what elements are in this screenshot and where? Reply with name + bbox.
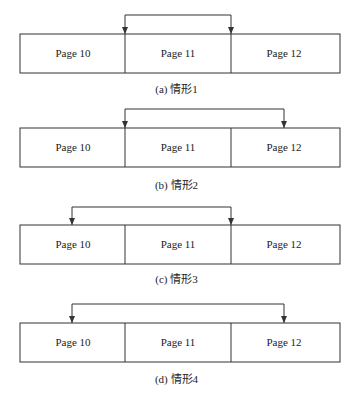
figure-caption: (c) 情形3 [0, 272, 353, 286]
arrow-head-icon [228, 27, 234, 34]
figure-caption: (d) 情形4 [0, 372, 353, 386]
figure-caption: (a) 情形1 [0, 82, 353, 96]
bracket-arrow-a [125, 15, 231, 34]
arrow-head-icon [281, 121, 287, 128]
page-label: Page 12 [231, 335, 337, 349]
figure-c [20, 207, 340, 264]
bracket-arrow-c [72, 207, 231, 225]
arrow-head-icon [122, 121, 128, 128]
arrow-head-icon [69, 316, 75, 323]
bracket-arrow-d [72, 304, 284, 323]
page-label: Page 10 [20, 335, 126, 349]
bracket-arrow-b [125, 109, 284, 128]
page-label: Page 11 [125, 237, 231, 251]
page-label: Page 11 [125, 46, 231, 60]
page-label: Page 12 [231, 46, 337, 60]
arrow-head-icon [281, 316, 287, 323]
page-label: Page 11 [125, 140, 231, 154]
page-label: Page 10 [20, 140, 126, 154]
page-label: Page 10 [20, 237, 126, 251]
arrow-head-icon [122, 27, 128, 34]
figure-caption: (b) 情形2 [0, 178, 353, 192]
page-label: Page 10 [20, 46, 126, 60]
figure-b [20, 109, 340, 167]
arrow-head-icon [69, 218, 75, 225]
figure-d [20, 304, 340, 362]
page-label: Page 11 [125, 335, 231, 349]
page-label: Page 12 [231, 140, 337, 154]
page-label: Page 12 [231, 237, 337, 251]
figure-a [20, 15, 340, 73]
arrow-head-icon [228, 218, 234, 225]
